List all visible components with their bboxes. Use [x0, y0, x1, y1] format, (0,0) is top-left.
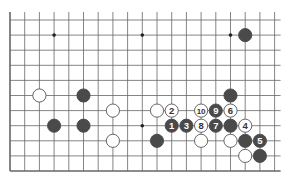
- black-stone-move-5: 5: [253, 134, 266, 147]
- black-stone: [77, 119, 90, 132]
- white-stone: [224, 134, 237, 147]
- go-board: 21096138745: [0, 0, 283, 181]
- white-stone-move-8: 8: [195, 119, 208, 132]
- white-stone-move-2: 2: [165, 104, 178, 117]
- black-stone: [239, 134, 252, 147]
- white-stone: [195, 134, 208, 147]
- white-stone: [150, 104, 163, 117]
- black-stone: [239, 28, 252, 41]
- white-stone: [106, 134, 119, 147]
- move-number-label: 7: [213, 120, 218, 131]
- black-stone: [253, 149, 266, 162]
- black-stone-move-9: 9: [209, 104, 222, 117]
- white-stone-move-10: 10: [195, 104, 208, 117]
- white-stone-move-6: 6: [224, 104, 237, 117]
- star-point: [141, 124, 145, 128]
- star-point: [229, 33, 233, 37]
- black-stone: [224, 119, 237, 132]
- black-stone: [150, 134, 163, 147]
- white-stone: [106, 104, 119, 117]
- white-stone-move-4: 4: [239, 119, 252, 132]
- black-stone: [224, 89, 237, 102]
- move-number-label: 3: [184, 120, 189, 131]
- black-stone: [77, 89, 90, 102]
- white-stone: [239, 149, 252, 162]
- move-number-label: 8: [198, 120, 203, 131]
- black-stone-move-1: 1: [165, 119, 178, 132]
- white-stone: [33, 89, 46, 102]
- black-stone: [48, 119, 61, 132]
- move-number-label: 1: [169, 120, 175, 131]
- black-stone-move-3: 3: [180, 119, 193, 132]
- move-number-label: 9: [213, 105, 218, 116]
- star-point: [52, 33, 56, 37]
- star-point: [141, 33, 145, 37]
- move-number-label: 2: [169, 105, 174, 116]
- black-stone-move-7: 7: [209, 119, 222, 132]
- move-number-label: 6: [228, 105, 233, 116]
- move-number-label: 10: [197, 107, 206, 116]
- move-number-label: 4: [243, 120, 249, 131]
- move-number-label: 5: [257, 135, 263, 146]
